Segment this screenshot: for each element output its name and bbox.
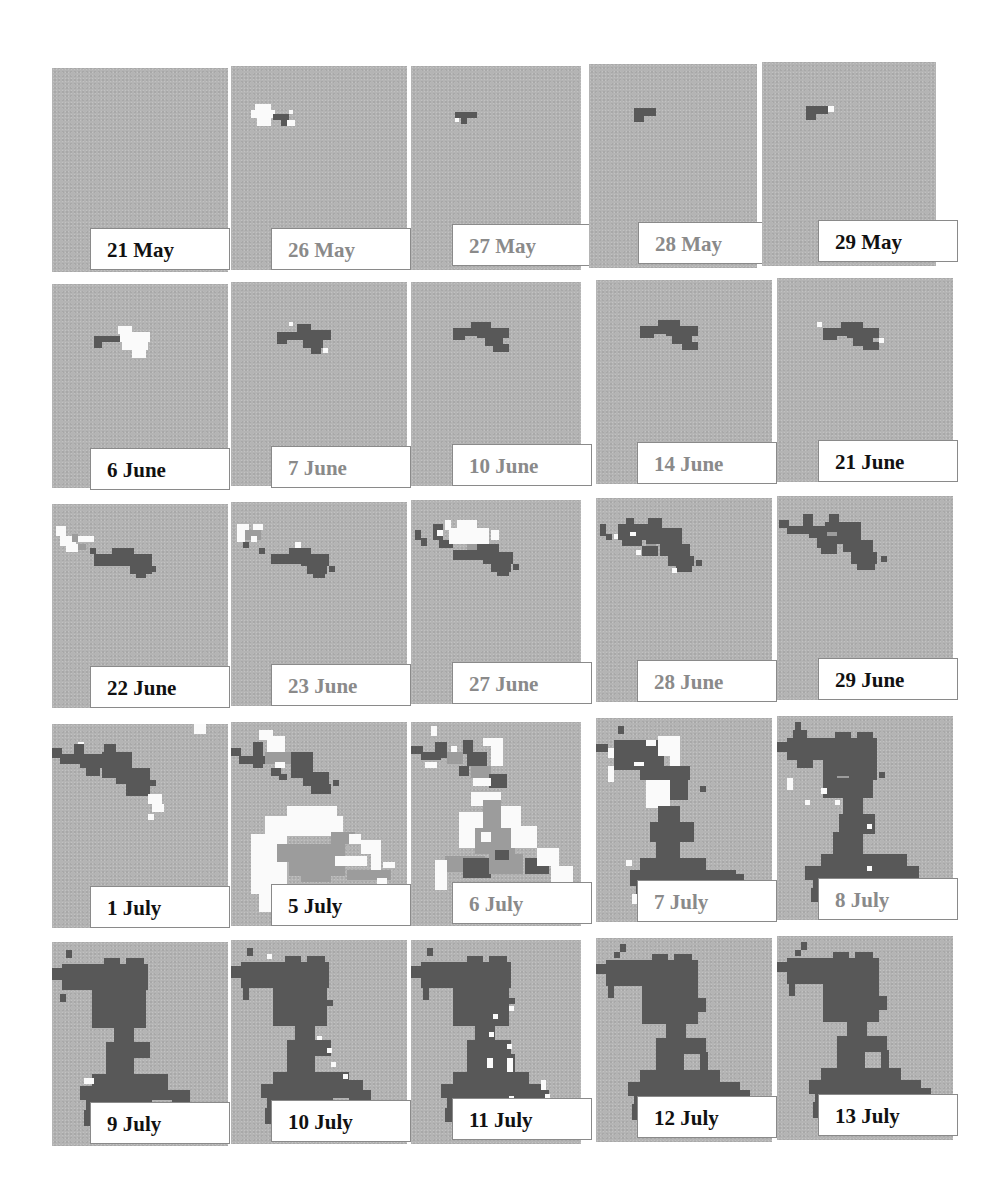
date-label: 27 June bbox=[452, 662, 592, 704]
date-label: 23 June bbox=[271, 664, 411, 706]
date-label: 14 June bbox=[637, 442, 777, 484]
date-label: 10 June bbox=[452, 444, 592, 486]
date-label: 21 May bbox=[90, 228, 230, 270]
date-label: 6 June bbox=[90, 448, 230, 490]
date-label: 7 July bbox=[637, 880, 777, 922]
date-label: 26 May bbox=[271, 228, 411, 270]
date-label: 29 June bbox=[818, 658, 958, 700]
date-label: 6 July bbox=[452, 882, 592, 924]
date-label: 29 May bbox=[818, 220, 958, 262]
date-label: 21 June bbox=[818, 440, 958, 482]
date-label: 27 May bbox=[452, 224, 592, 266]
date-label: 28 June bbox=[637, 660, 777, 702]
date-label: 22 June bbox=[90, 666, 230, 708]
date-label: 28 May bbox=[638, 222, 778, 264]
date-label: 5 July bbox=[271, 884, 411, 926]
time-series-figure: 21 May 26 May 27 May 28 May bbox=[0, 0, 1006, 1200]
date-label: 12 July bbox=[637, 1096, 777, 1138]
date-label: 13 July bbox=[818, 1094, 958, 1136]
date-label: 11 July bbox=[452, 1098, 592, 1140]
date-label: 9 July bbox=[90, 1102, 230, 1144]
date-label: 10 July bbox=[271, 1100, 411, 1142]
date-label: 7 June bbox=[271, 446, 411, 488]
date-label: 8 July bbox=[818, 878, 958, 920]
date-label: 1 July bbox=[90, 886, 230, 928]
